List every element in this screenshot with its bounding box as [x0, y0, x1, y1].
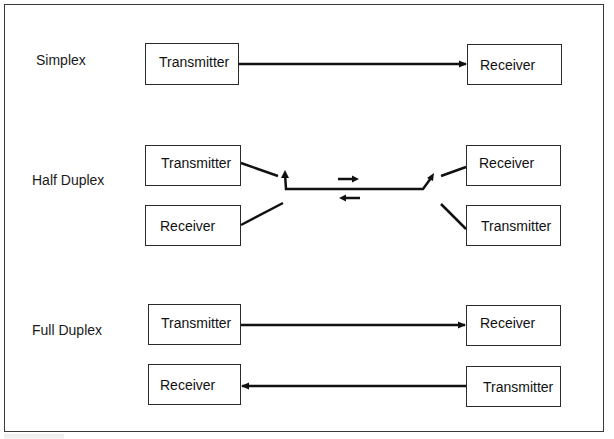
- full-duplex-left-transmitter-label: Transmitter: [161, 315, 231, 331]
- half-duplex-right-transmitter-box: Transmitter: [466, 205, 561, 246]
- half-duplex-left-transmitter-label: Transmitter: [161, 155, 231, 171]
- label-half-duplex: Half Duplex: [32, 172, 104, 188]
- full-duplex-left-transmitter-box: Transmitter: [148, 304, 241, 345]
- simplex-transmitter-box: Transmitter: [145, 43, 239, 85]
- full-duplex-right-transmitter-box: Transmitter: [466, 366, 561, 407]
- full-duplex-right-receiver-label: Receiver: [480, 315, 535, 331]
- full-duplex-right-transmitter-label: Transmitter: [483, 379, 553, 395]
- half-duplex-right-transmitter-label: Transmitter: [481, 218, 551, 234]
- half-duplex-right-receiver-box: Receiver: [466, 145, 561, 186]
- cropped-caption: [4, 434, 64, 439]
- full-duplex-right-receiver-box: Receiver: [466, 305, 561, 346]
- full-duplex-left-receiver-label: Receiver: [160, 377, 215, 393]
- half-duplex-right-receiver-label: Receiver: [479, 155, 534, 171]
- full-duplex-left-receiver-box: Receiver: [148, 364, 241, 405]
- half-duplex-left-receiver-box: Receiver: [145, 205, 241, 246]
- label-full-duplex: Full Duplex: [32, 322, 102, 338]
- simplex-receiver-box: Receiver: [467, 44, 562, 85]
- half-duplex-left-transmitter-box: Transmitter: [145, 145, 241, 186]
- simplex-receiver-label: Receiver: [480, 57, 535, 73]
- label-simplex: Simplex: [36, 52, 86, 68]
- half-duplex-left-receiver-label: Receiver: [160, 218, 215, 234]
- simplex-transmitter-label: Transmitter: [159, 54, 229, 70]
